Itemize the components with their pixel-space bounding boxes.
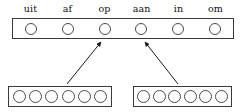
output-label-uit: uit bbox=[12, 1, 49, 16]
input-left-unit-cell-2 bbox=[44, 90, 60, 103]
input-left-unit-2[interactable] bbox=[45, 90, 58, 103]
output-unit-cell-om bbox=[196, 23, 233, 35]
output-label-aan: aan bbox=[123, 1, 160, 16]
input-right-unit-cell-5 bbox=[214, 90, 230, 103]
input-right-unit-5[interactable] bbox=[215, 90, 228, 103]
input-right-unit-1[interactable] bbox=[153, 90, 166, 103]
output-label-in: in bbox=[160, 1, 197, 16]
output-unit-in[interactable] bbox=[172, 23, 184, 35]
input-right-unit-4[interactable] bbox=[199, 90, 212, 103]
input-left-unit-0[interactable] bbox=[13, 90, 26, 103]
output-unit-cell-in bbox=[160, 23, 197, 35]
input-left-unit-cell-0 bbox=[11, 90, 27, 103]
output-label-op: op bbox=[86, 1, 123, 16]
output-unit-cell-af bbox=[50, 23, 87, 35]
output-unit-op[interactable] bbox=[99, 23, 111, 35]
input-left-unit-cell-4 bbox=[76, 90, 92, 103]
output-unit-om[interactable] bbox=[209, 23, 221, 35]
input-right-unit-2[interactable] bbox=[168, 90, 181, 103]
output-unit-uit[interactable] bbox=[25, 23, 37, 35]
output-layer-box bbox=[12, 18, 234, 39]
input-right-unit-0[interactable] bbox=[137, 90, 150, 103]
output-label-om: om bbox=[197, 1, 234, 16]
output-unit-cell-op bbox=[86, 23, 123, 35]
input-left-unit-3[interactable] bbox=[62, 90, 75, 103]
output-unit-cell-uit bbox=[13, 23, 50, 35]
input-left-unit-4[interactable] bbox=[78, 90, 91, 103]
output-unit-af[interactable] bbox=[62, 23, 74, 35]
input-right-unit-cell-0 bbox=[136, 90, 152, 103]
input-right-unit-cell-2 bbox=[167, 90, 183, 103]
input-right-unit-cell-3 bbox=[183, 90, 199, 103]
input-right-unit-cell-1 bbox=[152, 90, 168, 103]
output-label-af: af bbox=[49, 1, 86, 16]
input-left-unit-cell-3 bbox=[60, 90, 76, 103]
input-layer-left-box bbox=[8, 86, 112, 107]
arrow-left-to-op bbox=[67, 42, 101, 84]
input-left-unit-1[interactable] bbox=[29, 90, 42, 103]
arrow-right-to-aan bbox=[145, 42, 178, 84]
output-unit-cell-aan bbox=[123, 23, 160, 35]
input-right-unit-3[interactable] bbox=[184, 90, 197, 103]
output-layer-labels: uit af op aan in om bbox=[12, 1, 234, 16]
input-layer-right-box bbox=[133, 86, 232, 107]
input-left-unit-5[interactable] bbox=[94, 90, 107, 103]
input-left-unit-cell-1 bbox=[27, 90, 43, 103]
diagram-canvas: uit af op aan in om bbox=[0, 0, 246, 112]
input-left-unit-cell-5 bbox=[93, 90, 109, 103]
output-unit-aan[interactable] bbox=[135, 23, 147, 35]
input-right-unit-cell-4 bbox=[198, 90, 214, 103]
